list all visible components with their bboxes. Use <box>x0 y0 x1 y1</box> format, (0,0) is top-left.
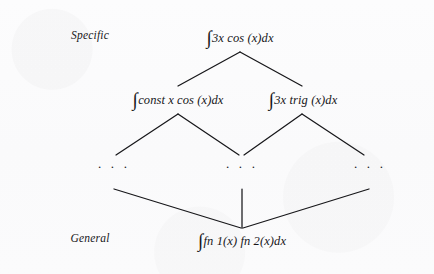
ellipsis-center: . . . <box>226 157 258 170</box>
integral-sign-icon: ∫ <box>198 230 203 251</box>
node-bottom-general-formula: ∫fn 1(x) fn 2(x)dx <box>198 235 286 248</box>
edge-ellipsis-right-to-bottom <box>243 189 369 228</box>
node-middle-right-formula: ∫3x trig (x)dx <box>269 94 338 107</box>
edge-middle-right-to-ellipsis-center <box>244 114 302 155</box>
axis-label-general: General <box>70 233 109 245</box>
node-top-expression: 3x cos (x)dx <box>212 31 274 45</box>
node-middle-right-expression: 3x trig (x)dx <box>274 93 337 107</box>
diagram-canvas: Specific General ∫3x cos (x)dx ∫const x … <box>0 0 434 274</box>
integral-sign-icon: ∫ <box>133 89 138 110</box>
node-top-specific-formula: ∫3x cos (x)dx <box>206 32 273 45</box>
edge-middle-right-to-ellipsis-right <box>302 114 364 155</box>
node-middle-left-expression: const x cos (x)dx <box>138 93 223 107</box>
node-bottom-expression: fn 1(x) fn 2(x)dx <box>204 234 287 248</box>
edge-top-to-middle-left <box>178 52 240 86</box>
integral-sign-icon: ∫ <box>206 27 211 48</box>
axis-label-specific: Specific <box>71 30 109 42</box>
edge-top-to-middle-right <box>240 52 302 86</box>
edge-ellipsis-left-to-bottom <box>114 189 241 228</box>
ellipsis-right: . . . <box>354 157 386 170</box>
ellipsis-left: . . . <box>98 157 130 170</box>
edge-middle-left-to-ellipsis-center <box>178 114 239 155</box>
node-middle-left-formula: ∫const x cos (x)dx <box>133 94 224 107</box>
edge-middle-left-to-ellipsis-left <box>116 114 178 155</box>
integral-sign-icon: ∫ <box>269 89 274 110</box>
